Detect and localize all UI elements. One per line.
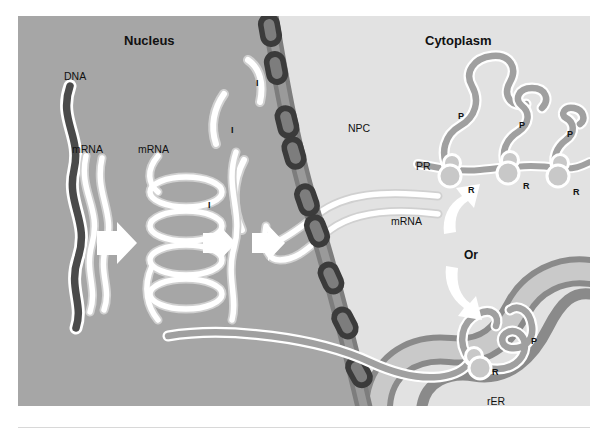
- footer-divider: [18, 427, 590, 428]
- mature-mrna-strand: [231, 152, 237, 320]
- label-or: Or: [464, 249, 478, 261]
- label-nucleus: Nucleus: [124, 34, 175, 47]
- label-dna: DNA: [64, 71, 86, 82]
- label-rer-protein: P: [531, 337, 537, 346]
- label-protein-2: P: [519, 121, 525, 130]
- label-ribosome-1: R: [468, 186, 475, 195]
- label-npc: NPC: [348, 123, 370, 134]
- label-protein-1: P: [458, 112, 464, 121]
- label-mrna-primary: mRNA: [72, 144, 103, 155]
- diagram-canvas: [18, 16, 590, 406]
- label-pr: PR: [416, 161, 431, 172]
- label-mrna-export: mRNA: [391, 216, 422, 227]
- label-ribosome-2: R: [523, 182, 530, 191]
- label-intron-2: I: [231, 126, 234, 135]
- label-mrna-spliced: mRNA: [138, 144, 169, 155]
- label-intron-3: I: [208, 201, 211, 210]
- diagram-panel: NucleusCytoplasmDNAmRNAmRNAIIINPCmRNAPRP…: [18, 16, 590, 406]
- figure-container: NucleusCytoplasmDNAmRNAmRNAIIINPCmRNAPRP…: [0, 0, 608, 442]
- label-rer-ribosome: R: [492, 368, 499, 377]
- label-protein-3: P: [567, 130, 573, 139]
- label-ribosome-3: R: [573, 188, 580, 197]
- label-cytoplasm: Cytoplasm: [425, 34, 491, 47]
- label-intron-1: I: [256, 79, 259, 88]
- label-rer: rER: [487, 396, 505, 406]
